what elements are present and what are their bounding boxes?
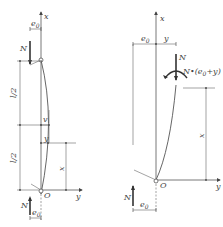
left-deflection-curve (41, 60, 49, 194)
right-origin-label: O (160, 181, 167, 190)
left-half-length-upper: l/2 (9, 88, 18, 98)
right-y-axis-label: y (215, 182, 221, 191)
right-panel: x e0 y N N•(e0+y) x y O (123, 12, 221, 212)
right-moment-label: N•(e0+y) (182, 67, 221, 77)
left-e0-bottom-label: e0 (32, 208, 41, 218)
left-x-axis-label: x (44, 12, 49, 21)
left-e0-top-label: e0 (31, 19, 40, 29)
left-force-top-label: N (19, 44, 28, 53)
right-force-bottom-label: N (123, 193, 132, 202)
left-force-bottom-label: N (20, 201, 29, 210)
right-y-top-label: y (163, 34, 169, 43)
left-bottom-pin (39, 189, 43, 193)
left-y-axis-label: y (75, 192, 81, 201)
left-origin-label: O (44, 191, 51, 200)
right-e0-top-label: e0 (141, 34, 150, 44)
right-deflection-curve (156, 85, 176, 180)
right-x-axis-label: x (160, 14, 165, 23)
left-deflection-y-label: y (43, 134, 49, 143)
left-deflection-v-label: v (43, 115, 48, 124)
right-force-top-label: N (178, 53, 187, 62)
left-panel: x e0 N l/2 l/2 v (9, 12, 82, 220)
left-x-height-label: x (57, 166, 66, 171)
right-x-height-label: x (197, 133, 206, 138)
left-half-length-lower: l/2 (9, 153, 18, 163)
right-bottom-pin (154, 179, 158, 183)
column-buckling-diagram: x e0 N l/2 l/2 v (0, 0, 223, 227)
right-e0-bottom-label: e0 (140, 200, 149, 210)
